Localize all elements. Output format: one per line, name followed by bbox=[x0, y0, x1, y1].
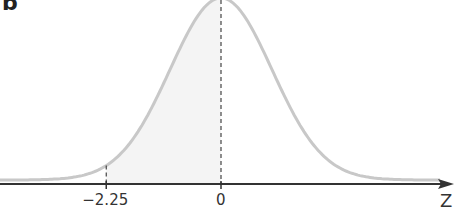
z-axis-label: Z bbox=[440, 190, 452, 211]
normal-distribution-figure: b −2.25 0 Z bbox=[0, 0, 454, 216]
tick-label-neg-2-25: −2.25 bbox=[82, 191, 128, 209]
shaded-area bbox=[106, 0, 221, 184]
bell-curve-plot bbox=[0, 0, 454, 216]
tick-label-zero: 0 bbox=[216, 191, 226, 209]
